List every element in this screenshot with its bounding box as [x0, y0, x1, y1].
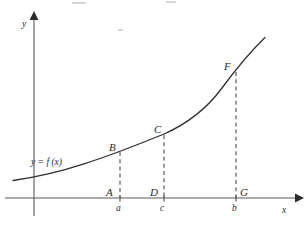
x-tick-label-a: a: [116, 203, 121, 213]
x-tick-label-b: b: [232, 203, 237, 213]
x-tick-label-c: c: [160, 203, 165, 213]
point-label-B: B: [109, 141, 116, 153]
function-label: y = f (x): [30, 157, 62, 168]
scan-speck-right: [166, 1, 176, 3]
point-label-D: D: [149, 186, 158, 198]
point-label-G: G: [240, 186, 248, 198]
x-axis-arrowhead: [295, 193, 304, 202]
scan-speck-left: [72, 2, 86, 4]
function-graph-figure: y x y = f (x) A B C D F G a c b: [0, 0, 308, 226]
y-axis-arrowhead: [30, 11, 39, 20]
point-label-C: C: [154, 123, 162, 135]
figure-canvas: y x y = f (x) A B C D F G a c b: [0, 0, 308, 226]
x-axis-label: x: [281, 205, 287, 215]
point-label-F: F: [223, 60, 231, 72]
y-axis-label: y: [21, 19, 27, 29]
scan-speck-mid: [118, 29, 123, 31]
point-label-A: A: [105, 186, 113, 198]
